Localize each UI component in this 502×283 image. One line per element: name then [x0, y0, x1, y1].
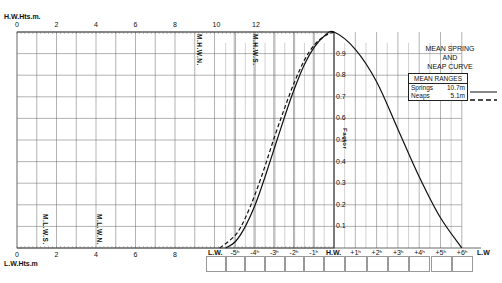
tick-label: L.W	[477, 249, 490, 257]
tick-label: 2	[55, 21, 59, 29]
legend-name: Neaps	[411, 92, 430, 100]
tick-label: 8	[173, 251, 177, 259]
time-entry-box	[206, 256, 226, 272]
tick-label: 0.1	[336, 222, 346, 230]
legend-value: 5.1m	[451, 92, 465, 100]
time-entry-box	[431, 256, 452, 272]
mhwn-label: M.H.W.N.	[196, 34, 203, 66]
tick-label: 12	[252, 21, 260, 29]
tick-label: 8	[173, 21, 177, 29]
tick-label: 6	[134, 21, 138, 29]
tick-label: 0	[15, 21, 19, 29]
tick-label: 6	[134, 251, 138, 259]
time-entry-box	[409, 256, 430, 272]
time-entry-box	[388, 256, 409, 272]
legend-name: Springs	[411, 84, 433, 92]
time-entry-box	[265, 256, 285, 272]
time-entry-box	[304, 256, 324, 272]
tick-label: 0.4	[336, 158, 346, 166]
tick-label: 0.2	[336, 201, 346, 209]
bottom-axis-label: L.W.Hts.m	[4, 260, 38, 268]
tick-label: 0	[15, 251, 19, 259]
time-entry-box	[226, 256, 246, 272]
chart-title: MEAN SPRING AND NEAP CURVE	[404, 44, 496, 71]
tick-label: 0.9	[336, 50, 346, 58]
top-axis-label: H.W.Hts.m.	[4, 13, 41, 21]
tick-label: 10	[213, 21, 221, 29]
tick-label: 2	[55, 251, 59, 259]
title-line: AND	[404, 53, 496, 62]
time-entry-box	[345, 256, 366, 272]
tick-label: 4	[94, 251, 98, 259]
tick-label: 0.7	[336, 93, 346, 101]
title-line: MEAN SPRING	[404, 44, 496, 53]
tick-label: 0.8	[336, 71, 346, 79]
title-line: NEAP CURVE	[404, 62, 496, 71]
time-entry-box	[452, 256, 473, 272]
time-entry-box	[367, 256, 388, 272]
mlws-label: M.L.W.S.	[42, 214, 49, 245]
legend: MEAN RANGES Springs 10.7m Neaps 5.1m	[408, 73, 468, 101]
time-entry-box	[245, 256, 265, 272]
time-entry-box	[285, 256, 305, 272]
time-entry-box	[324, 256, 345, 272]
legend-value: 10.7m	[447, 84, 465, 92]
mlwn-label: M.L.W.N.	[96, 214, 103, 245]
tidal-curve-chart	[0, 0, 502, 283]
legend-springs: Springs 10.7m	[409, 84, 467, 92]
legend-neaps: Neaps 5.1m	[409, 92, 467, 100]
mhws-label: M.H.W.S.	[252, 34, 259, 65]
legend-heading: MEAN RANGES	[409, 74, 467, 84]
tick-label: 4	[94, 21, 98, 29]
factor-axis-label: Factor	[342, 128, 348, 149]
tick-label: 0.3	[336, 179, 346, 187]
tick-label: 0.6	[336, 114, 346, 122]
